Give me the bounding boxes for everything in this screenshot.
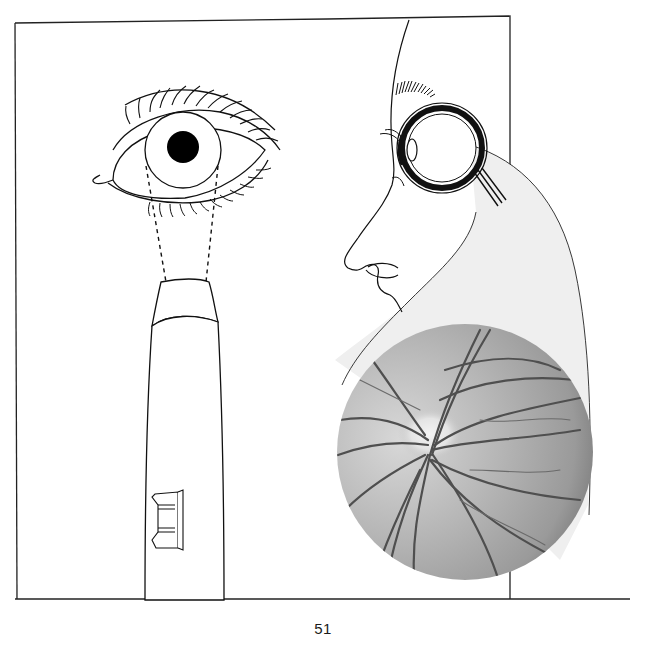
ophthalmoscopy-illustration xyxy=(0,0,646,650)
face-profile xyxy=(345,20,409,312)
eyeball-cross-section xyxy=(380,103,506,206)
eyebrow-hatch xyxy=(396,81,435,97)
page-number: 51 xyxy=(0,620,646,637)
frontal-eye xyxy=(93,90,280,203)
book-page: 51 xyxy=(0,0,646,650)
ophthalmoscope xyxy=(145,279,224,600)
